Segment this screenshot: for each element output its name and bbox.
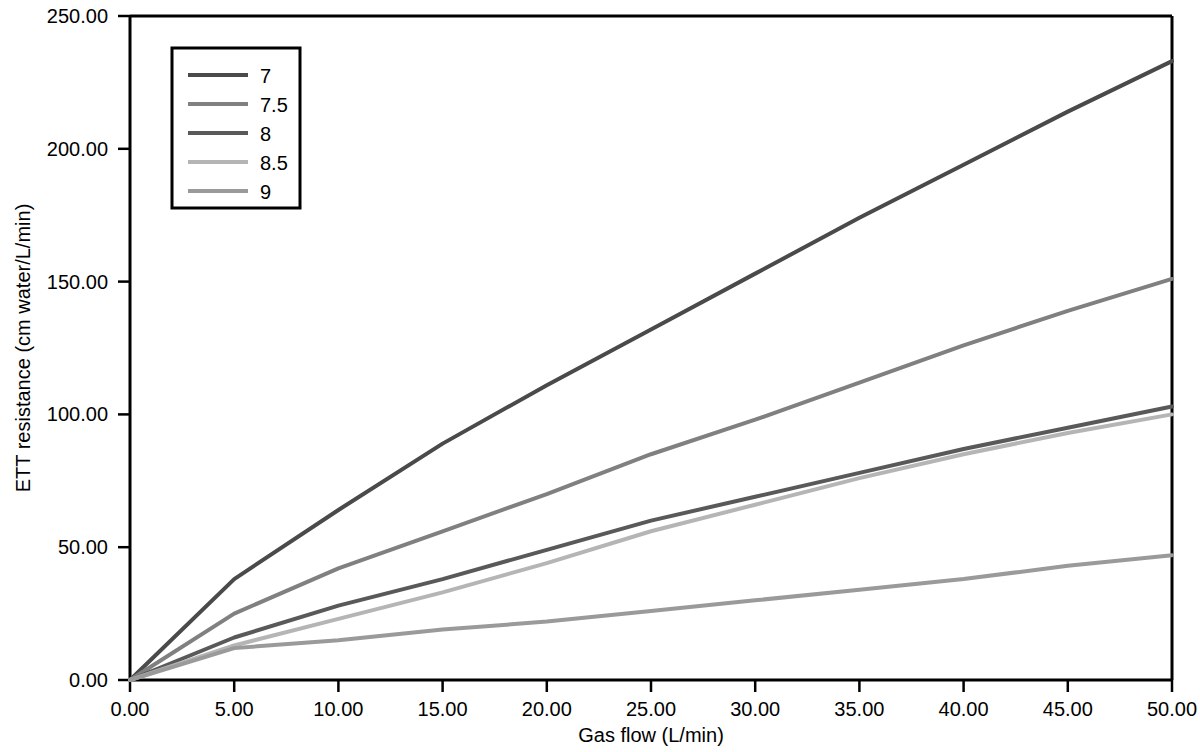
x-tick-label: 45.00 xyxy=(1043,698,1093,720)
chart-legend: 77.588.59 xyxy=(172,48,300,208)
y-tick-label: 150.00 xyxy=(47,271,108,293)
x-tick-label: 5.00 xyxy=(215,698,254,720)
series-line-9 xyxy=(130,555,1172,680)
x-tick-label: 50.00 xyxy=(1147,698,1197,720)
legend-label-9: 9 xyxy=(260,181,271,203)
y-tick-label: 250.00 xyxy=(47,5,108,27)
x-tick-label: 25.00 xyxy=(626,698,676,720)
x-tick-label: 20.00 xyxy=(522,698,572,720)
legend-label-7.5: 7.5 xyxy=(260,94,288,116)
x-tick-label: 0.00 xyxy=(111,698,150,720)
y-axis-ticks: 0.0050.00100.00150.00200.00250.00 xyxy=(47,5,130,691)
x-axis-ticks: 0.005.0010.0015.0020.0025.0030.0035.0040… xyxy=(111,680,1198,720)
x-tick-label: 10.00 xyxy=(313,698,363,720)
y-tick-label: 100.00 xyxy=(47,403,108,425)
legend-label-8.5: 8.5 xyxy=(260,152,288,174)
legend-label-8: 8 xyxy=(260,123,271,145)
x-axis-title: Gas flow (L/min) xyxy=(578,724,724,746)
y-tick-label: 0.00 xyxy=(69,669,108,691)
y-axis-title: ETT resistance (cm water/L/min) xyxy=(12,204,34,493)
legend-label-7: 7 xyxy=(260,65,271,87)
chart-container: 0.005.0010.0015.0020.0025.0030.0035.0040… xyxy=(0,0,1200,752)
y-tick-label: 50.00 xyxy=(58,536,108,558)
x-tick-label: 30.00 xyxy=(730,698,780,720)
x-tick-label: 40.00 xyxy=(939,698,989,720)
x-tick-label: 15.00 xyxy=(418,698,468,720)
x-tick-label: 35.00 xyxy=(834,698,884,720)
legend-border xyxy=(172,48,300,208)
y-tick-label: 200.00 xyxy=(47,138,108,160)
line-chart: 0.005.0010.0015.0020.0025.0030.0035.0040… xyxy=(0,0,1200,752)
